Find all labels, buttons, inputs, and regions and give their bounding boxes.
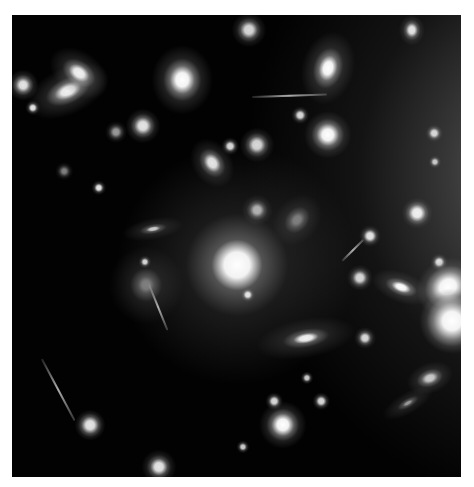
galaxy bbox=[265, 392, 283, 410]
lensing-arc bbox=[41, 358, 75, 421]
galaxy-cluster-photo bbox=[12, 15, 461, 477]
galaxy bbox=[359, 225, 381, 247]
galaxy bbox=[221, 137, 239, 155]
galaxy bbox=[354, 327, 376, 349]
galaxy bbox=[402, 198, 433, 229]
galaxy bbox=[75, 410, 106, 441]
galaxy bbox=[105, 121, 127, 143]
galaxy bbox=[151, 45, 213, 115]
galaxy bbox=[242, 195, 273, 226]
galaxy bbox=[55, 162, 73, 180]
galaxy bbox=[312, 392, 330, 410]
galaxy bbox=[91, 180, 106, 195]
galaxy bbox=[399, 15, 425, 45]
galaxy bbox=[141, 449, 176, 477]
galaxy bbox=[425, 124, 443, 142]
galaxy bbox=[291, 106, 309, 124]
galaxy bbox=[125, 108, 160, 143]
